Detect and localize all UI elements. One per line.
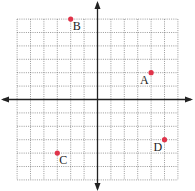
point-label-a: A (140, 73, 149, 87)
x-axis-arrow-left (1, 97, 9, 103)
point-label-d: D (154, 140, 163, 154)
coordinate-plane: ABCD (0, 0, 195, 191)
point-d (162, 137, 167, 142)
point-label-c: C (59, 153, 67, 167)
y-axis-arrow-up (95, 1, 101, 9)
point-a (149, 70, 154, 75)
point-label-b: B (73, 19, 81, 33)
x-axis-arrow-right (185, 97, 193, 103)
y-axis-arrow-down (95, 183, 101, 191)
